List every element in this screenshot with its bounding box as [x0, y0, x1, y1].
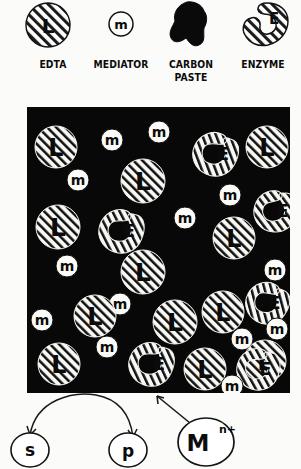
particle-symbol: m	[223, 187, 238, 203]
particle-edta: L	[74, 295, 116, 337]
particle-mediator: m	[264, 259, 286, 281]
carbon-paste-matrix: LmmELmLmELEmLmLmmLEmLLmmLLmELEm	[27, 107, 290, 393]
particle-mediator: m	[101, 129, 123, 151]
legend-icon-row: L m	[0, 0, 301, 55]
legend-edta-symbol: L	[42, 14, 55, 38]
particle-symbol: L	[167, 308, 183, 337]
particle-mediator: m	[219, 184, 241, 206]
legend-label-edta: EDTA	[17, 58, 89, 71]
substrate-to-product-arc	[30, 394, 133, 437]
particle-mediator: m	[174, 207, 196, 229]
particle-mediator: m	[31, 309, 53, 331]
legend-label-enzyme: ENZYME	[230, 58, 297, 71]
metal-ion-label: M	[187, 430, 210, 456]
particle-mediator: m	[148, 121, 170, 143]
particle-edta: L	[121, 159, 165, 203]
particle-mediator: m	[96, 336, 118, 358]
particle-symbol: E	[259, 358, 271, 379]
substrate-label: s	[25, 440, 35, 460]
particle-symbol: L	[50, 213, 66, 242]
particle-symbol: m	[152, 124, 167, 140]
particle-symbol: L	[197, 356, 212, 384]
particle-symbol: L	[135, 258, 151, 287]
particle-symbol: E	[268, 292, 280, 313]
legend-label-carbon-paste: CARBON PASTE	[156, 58, 226, 83]
particle-edta: L	[38, 343, 80, 385]
particle-mediator: m	[266, 318, 288, 340]
particle-symbol: E	[276, 200, 288, 221]
particle-symbol: m	[235, 331, 250, 347]
metal-ion-to-electrode-arrow	[157, 396, 190, 423]
particle-symbol: m	[35, 312, 50, 328]
particle-edta: L	[184, 348, 226, 390]
particle-symbol: L	[51, 351, 66, 379]
particle-symbol: m	[100, 339, 115, 355]
particle-edta: L	[153, 300, 197, 344]
particle-edta: L	[202, 291, 244, 333]
product-label: p	[122, 441, 134, 461]
particle-mediator: m	[221, 375, 243, 393]
legend-icon-edta: L	[22, 0, 74, 52]
particle-symbol: E	[217, 143, 229, 164]
particle-symbol: L	[135, 167, 151, 196]
legend-enzyme-symbol: E	[269, 10, 279, 28]
particle-symbol: E	[123, 220, 135, 241]
particle-edta: L	[35, 126, 77, 168]
particle-symbol: m	[105, 132, 120, 148]
legend-mediator-symbol: m	[114, 17, 128, 32]
legend-label-mediator: MEDIATOR	[81, 58, 160, 71]
particle-symbol: m	[178, 210, 193, 226]
particle-symbol: L	[87, 303, 102, 331]
figure-root: L m	[0, 0, 301, 469]
reaction-scheme: s p M n+	[0, 393, 301, 469]
particle-symbol: L	[259, 134, 274, 162]
legend-icon-carbon-paste	[163, 0, 215, 52]
legend-label-carbon-paste-line2: PASTE	[156, 71, 226, 84]
particle-symbol: E	[153, 353, 165, 374]
legend-icon-enzyme: E	[236, 0, 292, 52]
particle-edta: L	[213, 217, 255, 259]
carbon-paste-blob-shape	[170, 2, 207, 46]
particle-symbol: m	[270, 321, 285, 337]
particle-edta: L	[121, 250, 165, 294]
particle-symbol: L	[48, 134, 63, 162]
particle-edta: L	[246, 126, 288, 168]
particle-symbol: m	[71, 172, 86, 188]
particle-symbol: L	[226, 225, 241, 253]
particle-mediator: m	[56, 255, 78, 277]
legend-label-row: EDTA MEDIATOR CARBON PASTE ENZYME	[0, 58, 301, 100]
legend-label-carbon-paste-line1: CARBON	[156, 58, 226, 71]
metal-ion-charge: n+	[219, 423, 236, 436]
matrix-particles: LmmELmLmELEmLmLmmLEmLLmmLLmELEm	[27, 107, 290, 393]
particle-symbol: L	[215, 299, 230, 327]
particle-mediator: m	[67, 169, 89, 191]
particle-symbol: m	[268, 262, 283, 278]
legend-icon-mediator: m	[100, 0, 142, 52]
particle-symbol: m	[60, 258, 75, 274]
particle-edta: L	[36, 205, 80, 249]
particle-symbol: m	[225, 378, 240, 393]
